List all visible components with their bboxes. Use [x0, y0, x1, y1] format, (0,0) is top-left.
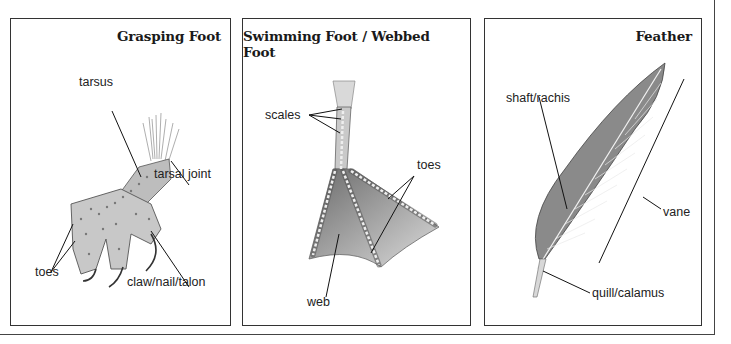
- label-web: web: [307, 295, 330, 309]
- feather-illustration: [485, 19, 703, 327]
- label-shaft: shaft/rachis: [506, 91, 570, 105]
- label-scales: scales: [265, 108, 300, 122]
- panel-swimming-foot: Swimming Foot / Webbed Foot: [242, 18, 471, 326]
- label-claw: claw/nail/talon: [127, 275, 206, 289]
- label-quill: quill/calamus: [592, 286, 664, 300]
- label-toes: toes: [35, 265, 59, 279]
- label-tarsus: tarsus: [79, 75, 113, 89]
- label-vane: vane: [663, 205, 690, 219]
- panel-grasping-foot: Grasping Foot: [10, 18, 231, 326]
- webbed-foot-illustration: [243, 19, 472, 327]
- label-toes: toes: [417, 158, 441, 172]
- panel-feather: Feather shaft/rachis vane quill/calamus: [484, 18, 702, 326]
- label-tarsal-joint: tarsal joint: [154, 167, 211, 181]
